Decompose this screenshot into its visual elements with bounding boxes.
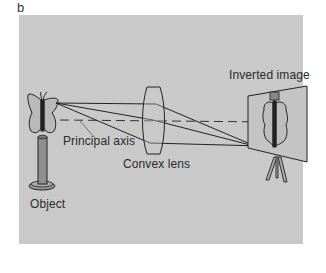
principal-axis-label: Principal axis: [63, 134, 135, 148]
optics-diagram: [0, 0, 326, 273]
object-stand: [29, 135, 55, 190]
convex-lens-icon: [143, 87, 165, 154]
convex-lens-label: Convex lens: [123, 157, 190, 171]
inverted-butterfly-icon: [263, 101, 288, 147]
principal-axis-line: [60, 120, 275, 122]
inverted-image-label: Inverted image: [229, 68, 310, 82]
tripod-icon: [266, 157, 287, 182]
butterfly-object-icon: [28, 92, 58, 133]
object-label: Object: [30, 197, 65, 211]
projection-screen: [248, 86, 307, 182]
